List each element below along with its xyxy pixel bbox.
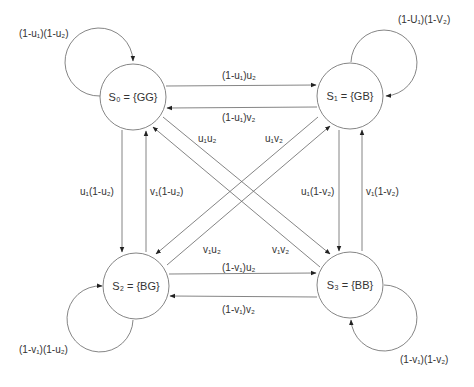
label-s2-to-s1: v₁u₂ — [203, 244, 221, 256]
label-s0-to-s1: (1-u₁)u₂ — [222, 70, 256, 82]
label-s3-to-s1: v₁(1-v₂) — [366, 186, 399, 198]
self-loop-s3 — [351, 285, 417, 351]
state-s3-label: S₃ = {BB} — [327, 279, 373, 291]
label-s0-self: (1-u₁)(1-u₂) — [19, 28, 68, 40]
label-s2-to-s0: v₁(1-u₂) — [150, 186, 183, 198]
label-s2-to-s3: (1-v₁)u₂ — [222, 262, 255, 274]
label-s1-to-s3: u₁(1-v₂) — [301, 186, 334, 198]
edge-s0-s1 — [166, 85, 316, 86]
self-loop-s2 — [67, 286, 133, 352]
label-s1-to-s2: u₁v₂ — [265, 133, 283, 145]
edge-s3-s2 — [170, 296, 317, 297]
self-loop-s1 — [351, 30, 417, 96]
edge-s1-s0 — [167, 107, 317, 108]
label-s0-to-s3: u₁u₂ — [198, 133, 216, 145]
label-s1-self: (1-U₁)(1-V₂) — [398, 14, 450, 26]
label-s2-self: (1-v₁)(1-u₂) — [19, 344, 68, 356]
label-s3-to-s2: (1-v₁)v₂ — [222, 304, 255, 316]
state-s0-label: S₀ = {GG} — [109, 91, 158, 103]
state-s2-label: S₂ = {BG} — [112, 280, 159, 292]
state-transition-diagram — [0, 0, 474, 387]
label-s3-self: (1-v₁)(1-v₂) — [400, 354, 448, 366]
self-loop-s0 — [65, 28, 133, 96]
label-s1-to-s0: (1-u₁)v₂ — [222, 112, 255, 124]
state-s1-label: S₁ = {GB} — [327, 90, 374, 102]
label-s0-to-s2: u₁(1-u₂) — [80, 186, 114, 198]
label-s3-to-s0: v₁v₂ — [272, 244, 289, 256]
